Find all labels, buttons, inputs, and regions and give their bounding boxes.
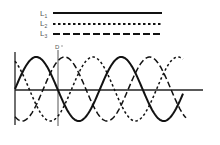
waveform-diagram: L1 L2 L3 D	[0, 0, 220, 145]
legend-item-l2: L2	[40, 19, 162, 29]
legend-item-l1: L1	[40, 9, 162, 19]
marker-label-d: D	[55, 44, 60, 50]
legend-label-l3: L3	[40, 29, 47, 39]
legend-label-l1: L1	[40, 9, 47, 19]
legend-label-l2: L2	[40, 19, 47, 29]
legend: L1 L2 L3	[40, 9, 162, 39]
marker-dot	[61, 45, 62, 46]
legend-item-l3: L3	[40, 29, 162, 39]
